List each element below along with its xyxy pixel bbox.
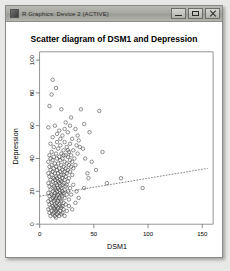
data-point xyxy=(76,152,79,155)
plot-frame xyxy=(40,52,213,224)
data-point xyxy=(119,176,122,179)
data-point xyxy=(63,214,66,217)
data-point xyxy=(82,122,85,125)
y-axis-label: Depression xyxy=(12,128,20,164)
data-point xyxy=(67,204,70,207)
data-point xyxy=(68,186,71,189)
chart-title: Scatter diagram of DSM1 and Depression xyxy=(31,34,198,44)
data-point xyxy=(47,172,50,175)
data-point xyxy=(62,149,65,152)
data-point xyxy=(65,145,68,148)
data-point xyxy=(55,140,58,143)
data-point xyxy=(47,126,50,129)
maximize-button[interactable] xyxy=(188,8,203,19)
data-point xyxy=(101,150,104,153)
y-tick-label: 60 xyxy=(28,122,35,129)
data-point xyxy=(70,208,73,211)
data-point xyxy=(59,144,62,147)
data-point xyxy=(67,198,70,201)
data-point xyxy=(53,162,56,165)
data-point xyxy=(78,145,81,148)
r-graphics-window: R Graphics: Device 2 (ACTIVE) Scatter di… xyxy=(5,5,223,258)
data-points xyxy=(47,78,145,219)
data-point xyxy=(49,142,52,145)
data-point xyxy=(56,147,59,150)
data-point xyxy=(50,150,53,153)
x-tick-label: 0 xyxy=(38,230,42,237)
x-tick-label: 50 xyxy=(90,230,97,237)
window-title: R Graphics: Device 2 (ACTIVE) xyxy=(22,11,169,17)
y-tick-label: 100 xyxy=(28,54,35,65)
data-point xyxy=(87,176,90,179)
data-point xyxy=(65,209,68,212)
data-point xyxy=(81,147,84,150)
data-point xyxy=(72,183,75,186)
y-tick-label: 80 xyxy=(28,89,35,96)
data-point xyxy=(70,137,73,140)
data-point xyxy=(66,180,69,183)
y-tick-label: 20 xyxy=(28,187,35,194)
data-point xyxy=(79,108,82,111)
data-point xyxy=(64,121,67,124)
data-point xyxy=(73,157,76,160)
data-point xyxy=(141,186,144,189)
data-point xyxy=(57,129,60,132)
data-point xyxy=(60,108,63,111)
data-point xyxy=(52,155,55,158)
window-title-bar[interactable]: R Graphics: Device 2 (ACTIVE) xyxy=(6,6,222,22)
data-point xyxy=(48,153,51,156)
data-point xyxy=(66,131,69,134)
data-point xyxy=(54,152,57,155)
data-point xyxy=(74,163,77,166)
data-point xyxy=(94,168,97,171)
data-point xyxy=(77,196,80,199)
data-point xyxy=(54,86,57,89)
data-point xyxy=(52,145,55,148)
data-point xyxy=(67,176,70,179)
data-point xyxy=(59,137,62,140)
data-point xyxy=(86,172,89,175)
data-point xyxy=(72,149,75,152)
data-point xyxy=(50,93,53,96)
y-tick-label: 0 xyxy=(28,222,35,226)
r-app-icon xyxy=(10,9,19,18)
data-point xyxy=(98,109,101,112)
data-point xyxy=(83,157,86,160)
data-point xyxy=(74,127,77,130)
data-point xyxy=(47,160,50,163)
data-point xyxy=(74,201,77,204)
data-point xyxy=(69,116,72,119)
data-point xyxy=(90,160,93,163)
y-tick-label: 40 xyxy=(28,155,35,162)
data-point xyxy=(69,153,72,156)
data-point xyxy=(77,139,80,142)
data-point xyxy=(68,124,71,127)
close-button[interactable] xyxy=(205,8,220,19)
x-tick-label: 150 xyxy=(197,230,208,237)
data-point xyxy=(51,135,54,138)
scatter-plot: Scatter diagram of DSM1 and Depression D… xyxy=(6,22,222,257)
data-point xyxy=(68,142,71,145)
data-point xyxy=(48,104,51,107)
data-point xyxy=(88,131,91,134)
data-point xyxy=(105,181,108,184)
data-point xyxy=(53,124,56,127)
plot-canvas: Scatter diagram of DSM1 and Depression D… xyxy=(6,22,222,257)
data-point xyxy=(63,140,66,143)
data-point xyxy=(51,78,54,81)
data-point xyxy=(70,173,73,176)
data-point xyxy=(76,134,79,137)
data-point xyxy=(63,127,66,130)
minimize-button[interactable] xyxy=(171,8,186,19)
x-tick-label: 100 xyxy=(143,230,154,237)
data-point xyxy=(55,132,58,135)
data-point xyxy=(69,193,72,196)
data-point xyxy=(47,191,50,194)
data-point xyxy=(82,186,85,189)
data-point xyxy=(56,162,59,165)
data-point xyxy=(75,144,78,147)
x-axis-label: DSM1 xyxy=(107,243,127,251)
data-point xyxy=(65,193,68,196)
data-point xyxy=(61,134,64,137)
data-point xyxy=(47,181,50,184)
